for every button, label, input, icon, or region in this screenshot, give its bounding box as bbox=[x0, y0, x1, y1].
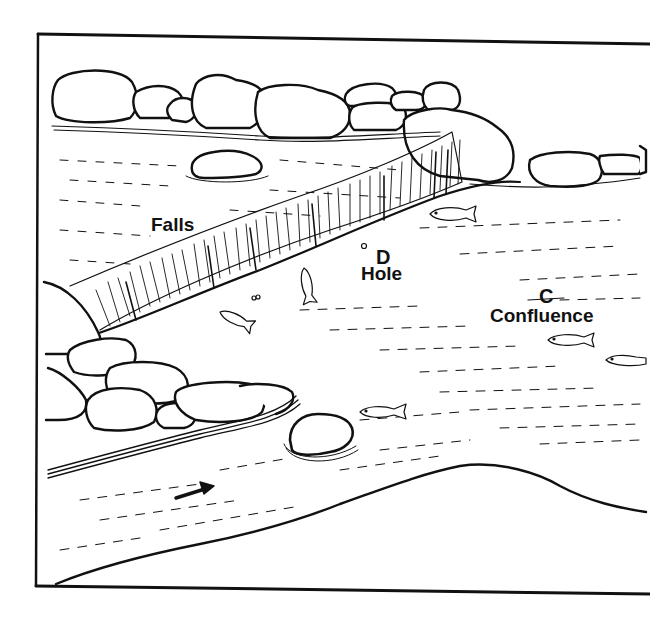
fish-icon bbox=[217, 306, 256, 334]
falls-label: Falls bbox=[151, 215, 194, 234]
confluence-marker: C bbox=[539, 286, 553, 306]
river-bank-lower bbox=[56, 465, 646, 584]
rocks-upper-bank bbox=[52, 71, 646, 187]
fish-icon bbox=[360, 404, 406, 419]
hole-label: Hole bbox=[361, 264, 402, 283]
rock-island-upper bbox=[186, 151, 268, 182]
fish-icon bbox=[606, 355, 646, 365]
rock-island-mid bbox=[284, 414, 358, 461]
fish-icon bbox=[548, 333, 594, 347]
rocks-lower-left bbox=[44, 282, 293, 430]
confluence-label: Confluence bbox=[490, 306, 593, 325]
fish-icon bbox=[430, 206, 476, 222]
fish-icon bbox=[297, 267, 317, 305]
